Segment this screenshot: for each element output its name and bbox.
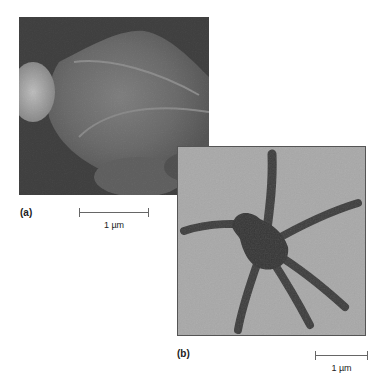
- scale-bar-a-label: 1 µm: [79, 220, 149, 230]
- tem-image: [178, 147, 365, 335]
- panel-label-a: (a): [20, 207, 32, 218]
- scale-bar-a: [79, 208, 149, 217]
- scale-bar-b-label: 1 µm: [315, 363, 368, 373]
- micrograph-b: [177, 146, 366, 336]
- scale-bar-b: [315, 351, 368, 360]
- panel-label-b: (b): [177, 348, 190, 359]
